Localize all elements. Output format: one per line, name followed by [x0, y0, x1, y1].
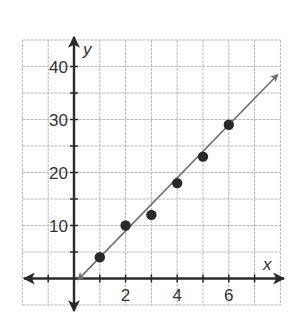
y-tick-label: 10	[49, 217, 68, 236]
trend-line	[78, 74, 278, 279]
x-tick-label: 6	[224, 286, 233, 305]
data-point	[95, 252, 105, 262]
y-tick-label: 40	[49, 58, 68, 77]
y-axis-label: y	[82, 40, 93, 59]
x-tick-label: 4	[172, 286, 181, 305]
data-point	[120, 220, 130, 230]
data-point	[224, 120, 234, 130]
scatter-plot: 24610203040 x y	[0, 0, 293, 313]
x-axis-label: x	[262, 255, 272, 274]
x-tick-label: 2	[121, 286, 130, 305]
y-tick-label: 20	[49, 164, 68, 183]
data-point	[198, 151, 208, 161]
data-point	[146, 210, 156, 220]
y-tick-label: 30	[49, 111, 68, 130]
tick-labels: 24610203040	[49, 58, 233, 305]
line-of-fit	[78, 74, 278, 279]
data-point	[172, 178, 182, 188]
